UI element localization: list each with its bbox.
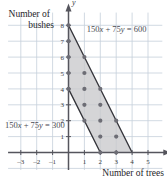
- y-tick-label: 4: [61, 86, 65, 94]
- lattice-point: [66, 71, 70, 75]
- graph-canvas: –3–2–11234512345678xy150x + 75y = 600150…: [0, 0, 167, 181]
- y-axis-title-line1: Number of: [9, 9, 51, 19]
- lattice-point: [82, 71, 86, 75]
- equation-label-lower: 150x + 75y = 300: [5, 120, 65, 130]
- lattice-point: [114, 150, 118, 154]
- x-axis-arrow-icon: [163, 150, 167, 156]
- lattice-point: [66, 23, 70, 27]
- x-axis-title: Number of trees: [102, 168, 164, 178]
- x-tick-label: 5: [146, 158, 150, 166]
- x-tick-label: 1: [83, 158, 87, 166]
- lattice-point: [66, 87, 70, 91]
- lattice-point: [98, 103, 102, 107]
- inequality-graph-figure: –3–2–11234512345678xy150x + 75y = 600150…: [0, 0, 167, 181]
- lattice-point: [114, 135, 118, 139]
- lattice-point: [98, 87, 102, 91]
- y-tick-label: 5: [61, 70, 65, 78]
- y-tick-label: 1: [61, 133, 65, 141]
- lattice-point: [114, 119, 118, 123]
- x-tick-label: 3: [114, 158, 118, 166]
- lattice-point: [66, 55, 70, 59]
- lattice-point: [98, 150, 102, 154]
- x-tick-label: 4: [130, 158, 134, 166]
- x-tick-label: 2: [99, 158, 103, 166]
- x-tick-label: –3: [16, 158, 25, 166]
- x-tick-label: –1: [48, 158, 57, 166]
- x-tick-label: –2: [32, 158, 41, 166]
- lattice-point: [82, 103, 86, 107]
- y-tick-label: 7: [61, 38, 65, 46]
- y-axis-arrow-icon: [66, 4, 72, 12]
- y-axis-title-line2: bushes: [28, 20, 54, 30]
- y-tick-label: 6: [61, 54, 65, 62]
- equation-label-upper: 150x + 75y = 600: [87, 24, 147, 34]
- lattice-point: [66, 39, 70, 43]
- lattice-point: [98, 119, 102, 123]
- lattice-point: [98, 135, 102, 139]
- lattice-point: [82, 119, 86, 123]
- lattice-point: [82, 87, 86, 91]
- y-tick-label: 8: [61, 22, 65, 30]
- y-axis-symbol: y: [71, 0, 76, 7]
- y-tick-label: 3: [61, 101, 65, 109]
- lattice-point: [82, 55, 86, 59]
